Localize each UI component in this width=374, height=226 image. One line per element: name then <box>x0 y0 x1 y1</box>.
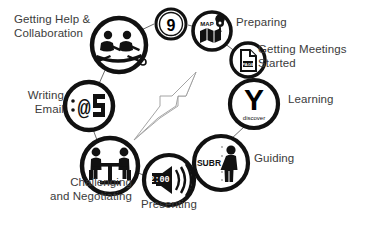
y-discover-icon: Y <box>244 83 264 116</box>
subr-icon-text: SUBR <box>197 158 221 168</box>
node-writing-email[interactable]: @ <box>65 82 113 130</box>
node-preparing[interactable]: MAP <box>193 12 231 50</box>
y-discover-subtext: discover <box>243 115 265 121</box>
label-presenting: Presenting <box>141 198 225 212</box>
at-sign-glyph: @ <box>77 97 90 122</box>
map-icon-text: MAP <box>200 21 213 27</box>
label-learning: Learning <box>288 93 366 107</box>
label-getting-meetings: Getting Meetings Started <box>258 43 370 70</box>
page-icon-text: PAGE <box>242 62 254 67</box>
label-challenging: Challenging and Negotiating <box>6 176 132 203</box>
node-guiding[interactable]: SUBR <box>194 136 248 190</box>
node-learning[interactable]: Y discover <box>230 80 278 128</box>
speaker-timer-text: 2:00 <box>149 175 169 185</box>
label-guiding: Guiding <box>254 152 324 166</box>
label-getting-help: Getting Help & Collaboration <box>14 13 110 40</box>
step-badge-9[interactable]: 9 <box>156 9 186 39</box>
diagonal-arrow <box>134 72 196 140</box>
label-writing-email: Writing Email <box>6 89 64 116</box>
label-preparing: Preparing <box>236 16 316 30</box>
document-page-icon: PAGE <box>241 50 256 71</box>
step-badge-value: 9 <box>167 17 176 34</box>
